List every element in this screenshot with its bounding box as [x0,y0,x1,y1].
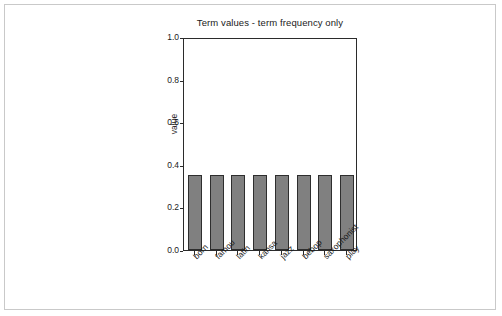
y-axis-ticks: 0.00.20.40.60.81.0 [153,38,179,251]
chart-title: Term values - term frequency only [183,17,357,28]
figure-border: Term values - term frequency only value … [4,4,496,310]
y-tick-label: 0.2 [155,202,179,212]
y-tick-label: 0.8 [155,75,179,85]
bar [253,175,267,250]
y-tick-label: 0.4 [155,160,179,170]
bar [210,175,224,250]
bar [188,175,202,250]
bar [297,175,311,250]
y-tick-label: 1.0 [155,32,179,42]
y-tick-label: 0.6 [155,117,179,127]
plot-area [183,38,357,251]
bar [275,175,289,250]
y-tick-label: 0.0 [155,245,179,255]
x-axis-tick-labels: bornfamoulatinkansajazzbebopsaxophonistp… [183,254,383,314]
bar [318,175,332,250]
bar [231,175,245,250]
